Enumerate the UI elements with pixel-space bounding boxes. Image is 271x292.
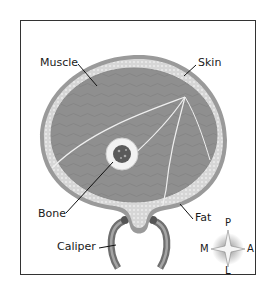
label-bone: Bone — [38, 208, 66, 219]
bone-marrow — [113, 145, 131, 163]
label-muscle: Muscle — [40, 57, 78, 68]
thigh-cross-section-illustration — [0, 0, 271, 292]
compass-label-left: M — [200, 244, 209, 254]
compass-rose-icon — [211, 230, 245, 267]
thigh-cross-section — [40, 55, 227, 234]
label-caliper: Caliper — [57, 241, 96, 252]
compass-label-top: P — [225, 218, 231, 228]
compass-label-bottom: L — [225, 266, 231, 276]
compass-label-right: A — [247, 244, 254, 254]
muscle-region — [51, 68, 217, 202]
label-fat: Fat — [195, 212, 211, 223]
label-skin: Skin — [198, 57, 221, 68]
